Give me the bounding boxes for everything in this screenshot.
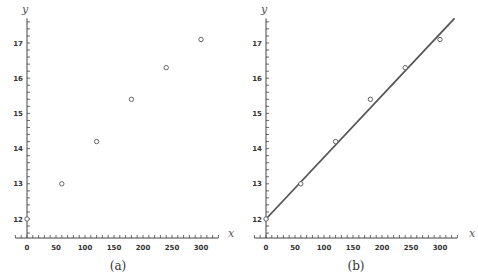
y-tick-label: 13 [13, 180, 23, 188]
x-tick-label: 200 [375, 244, 390, 252]
data-point [403, 65, 407, 69]
data-point [333, 139, 337, 143]
fit-line [266, 18, 455, 219]
x-tick-label: 0 [264, 244, 269, 252]
x-tick-label: 100 [78, 244, 93, 252]
x-tick-label: 250 [165, 244, 180, 252]
y-tick-label: 15 [252, 110, 262, 118]
y-tick-label: 12 [13, 216, 23, 224]
y-axis-label: y [260, 3, 268, 16]
x-tick-label: 50 [51, 244, 61, 252]
x-tick-label: 50 [290, 244, 300, 252]
panel-caption: (a) [110, 259, 127, 273]
panel-caption: (b) [347, 259, 364, 273]
data-point [299, 182, 303, 186]
x-axis-label: x [469, 227, 476, 240]
y-tick-label: 14 [13, 145, 23, 153]
data-point [60, 182, 64, 186]
data-point [94, 139, 98, 143]
x-tick-label: 150 [346, 244, 361, 252]
y-tick-label: 16 [13, 75, 23, 83]
y-tick-label: 14 [252, 145, 262, 153]
data-point [438, 37, 442, 41]
x-tick-label: 150 [107, 244, 122, 252]
x-tick-label: 300 [433, 244, 448, 252]
panel-b: 050100150200250300x121314151617y(b) [252, 3, 476, 273]
y-tick-label: 15 [13, 110, 23, 118]
data-point [264, 217, 268, 221]
data-point [199, 37, 203, 41]
y-tick-label: 12 [252, 216, 262, 224]
y-tick-label: 17 [13, 40, 23, 48]
y-tick-label: 17 [252, 40, 262, 48]
x-tick-label: 200 [136, 244, 151, 252]
data-point [164, 65, 168, 69]
y-tick-label: 13 [252, 180, 262, 188]
x-axis-label: x [228, 227, 235, 240]
x-tick-label: 0 [25, 244, 30, 252]
y-axis-label: y [21, 3, 29, 16]
figure: 050100150200250300x121314151617y(a) 0501… [0, 0, 478, 276]
x-tick-label: 100 [317, 244, 332, 252]
panel-a: 050100150200250300x121314151617y(a) [13, 3, 235, 273]
x-tick-label: 250 [404, 244, 419, 252]
data-point [25, 217, 29, 221]
y-tick-label: 16 [252, 75, 262, 83]
data-point [129, 97, 133, 101]
x-tick-label: 300 [194, 244, 209, 252]
data-point [368, 97, 372, 101]
